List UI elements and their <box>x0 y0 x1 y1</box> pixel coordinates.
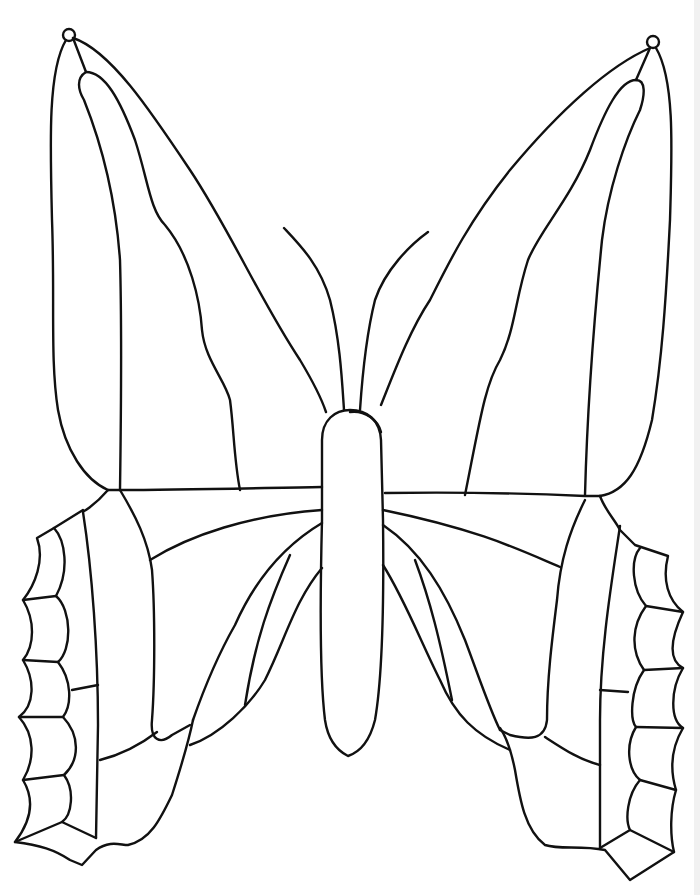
right-forewing-leading-edge <box>381 48 650 405</box>
right-forewing <box>350 36 671 496</box>
left-hindwing-outer-edge <box>15 490 193 865</box>
left-forewing-outer-edge <box>51 40 108 490</box>
right-forewing-vein-b <box>465 80 636 495</box>
left-hindwing-cell <box>120 490 190 740</box>
right-hindwing-inner-vein-b <box>415 560 452 700</box>
right-hindwing-inner-vein-a <box>383 525 500 730</box>
right-hindwing-small-vein <box>600 690 628 692</box>
page-edge-shadow <box>694 0 700 895</box>
left-hindwing-crossbar <box>23 775 64 780</box>
left-forewing-vein-b <box>86 72 240 490</box>
right-hindwing-crossbar <box>636 727 683 728</box>
left-hindwing-upper-vein <box>150 510 322 560</box>
right-hindwing-scallop-inner <box>600 548 646 848</box>
right-hindwing-crossbar <box>640 780 676 790</box>
left-forewing <box>51 29 326 490</box>
body <box>321 410 383 756</box>
right-hindwing-cell <box>500 500 585 738</box>
left-hindwing-inner-vein-b <box>245 555 290 705</box>
right-hindwing-upper-vein <box>383 510 560 567</box>
right-hindwing-lower-vein <box>545 737 600 765</box>
left-hindwing-crossbar <box>23 596 56 600</box>
left-hindwing-small-vein <box>72 685 98 690</box>
left-hindwing-crossbar <box>23 660 58 662</box>
left-hindwing-inner-vein-c <box>190 568 322 745</box>
left-forewing-leading-edge <box>73 38 326 412</box>
right-forewing-outer-edge <box>600 48 671 496</box>
right-wing-tip-knob <box>647 36 659 48</box>
left-hindwing-lower-vein <box>100 732 157 760</box>
right-hindwing-crossbar <box>644 668 683 670</box>
left-hindwing-band-vein <box>83 512 98 838</box>
right-hindwing-inner-vein-c <box>383 565 510 750</box>
body-abdomen <box>321 410 383 756</box>
left-hindwing <box>15 490 322 865</box>
right-forewing-base <box>385 493 600 496</box>
left-forewing-base <box>108 487 322 490</box>
butterfly-svg <box>0 0 700 895</box>
right-hindwing-crossbar <box>630 830 674 852</box>
left-forewing-vein-a <box>79 72 121 490</box>
butterfly-drawing <box>0 0 700 895</box>
right-hindwing-band-vein <box>600 526 620 848</box>
right-hindwing <box>383 496 683 880</box>
